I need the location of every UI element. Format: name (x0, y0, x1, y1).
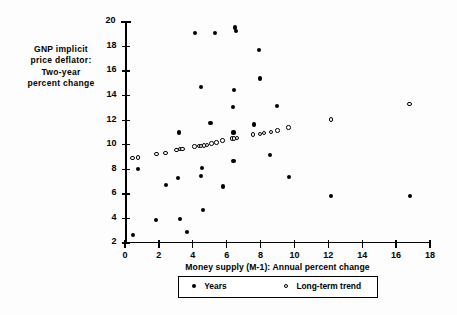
x-tick-label-8: 8 (258, 250, 263, 260)
data-point (154, 218, 158, 222)
data-point (268, 153, 272, 157)
data-point (214, 140, 218, 144)
x-axis-line (125, 242, 430, 244)
x-tick-16 (395, 240, 396, 248)
x-tick-6 (226, 240, 227, 248)
data-point (329, 194, 333, 198)
data-point (163, 151, 167, 155)
x-tick-label-10: 10 (289, 250, 299, 260)
x-axis-title: Money supply (M-1): Annual percent chang… (125, 262, 430, 272)
data-point (269, 130, 273, 134)
x-tick-label-12: 12 (323, 250, 333, 260)
data-point (136, 155, 140, 159)
y-axis-title-line-1: GNP implicit (12, 44, 110, 55)
y-tick-10: 10 (122, 144, 130, 145)
data-point (154, 152, 158, 156)
legend-entry-years: Years (192, 281, 227, 291)
open-circle-icon (284, 284, 288, 288)
data-point (235, 136, 239, 140)
y-tick-6: 6 (122, 193, 130, 194)
data-point (407, 102, 411, 106)
y-axis-title-line-4: percent change (12, 78, 110, 89)
data-point (251, 132, 255, 136)
legend-label-trend: Long-term trend (296, 281, 361, 291)
data-point (199, 174, 203, 178)
data-point (220, 138, 224, 142)
y-tick-label-8: 8 (111, 163, 116, 173)
data-point (193, 31, 197, 35)
data-point (130, 156, 134, 160)
data-point (252, 122, 256, 126)
x-tick-label-16: 16 (391, 250, 401, 260)
data-point (208, 121, 212, 125)
y-tick-label-16: 16 (106, 64, 116, 74)
data-point (209, 141, 213, 145)
data-point (232, 88, 236, 92)
data-point (201, 208, 205, 212)
y-tick-4: 4 (122, 218, 130, 219)
plot-area: 2468101214161820 024681012141618 (125, 22, 430, 243)
x-tick-14 (362, 240, 363, 248)
data-point (234, 29, 238, 33)
scatter-plot-figure: GNP implicit price deflator: Two-year pe… (0, 0, 457, 315)
data-point (200, 166, 204, 170)
data-point (257, 48, 261, 52)
y-tick-14: 14 (122, 95, 130, 96)
y-axis-title-line-2: price deflator: (12, 55, 110, 66)
x-tick-label-6: 6 (224, 250, 229, 260)
filled-circle-icon (192, 284, 196, 288)
data-point (258, 76, 262, 80)
x-tick-10 (294, 240, 295, 248)
y-tick-label-18: 18 (106, 40, 116, 50)
data-point (286, 125, 290, 129)
y-tick-label-14: 14 (106, 89, 116, 99)
x-tick-label-0: 0 (122, 250, 127, 260)
data-point (231, 105, 235, 109)
y-tick-label-2: 2 (111, 236, 116, 246)
x-tick-8 (260, 240, 261, 248)
legend-entry-trend: Long-term trend (284, 281, 361, 291)
data-point (287, 175, 291, 179)
x-tick-4 (192, 240, 193, 248)
data-point (221, 184, 225, 188)
x-tick-label-4: 4 (190, 250, 195, 260)
data-point (275, 104, 279, 108)
y-tick-8: 8 (122, 169, 130, 170)
y-tick-label-20: 20 (105, 15, 115, 25)
data-point (185, 230, 189, 234)
data-point (231, 159, 235, 163)
y-tick-18: 18 (122, 46, 130, 47)
x-tick-0 (124, 240, 125, 248)
data-point (408, 194, 412, 198)
x-tick-12 (328, 240, 329, 248)
legend-box: Years Long-term trend (178, 276, 378, 298)
data-point (178, 217, 182, 221)
data-point (199, 85, 203, 89)
x-tick-label-2: 2 (156, 250, 161, 260)
y-tick-label-10: 10 (106, 138, 116, 148)
y-axis-title-line-3: Two-year (12, 67, 110, 78)
y-tick-20: 20 (121, 21, 131, 23)
data-point (176, 176, 180, 180)
y-tick-label-12: 12 (106, 114, 116, 124)
legend-label-years: Years (204, 281, 226, 291)
y-tick-16: 16 (122, 70, 130, 71)
data-point (177, 130, 181, 134)
data-point (180, 147, 184, 151)
y-axis-line (125, 22, 127, 243)
data-point (262, 131, 266, 135)
x-tick-label-14: 14 (357, 250, 367, 260)
y-tick-12: 12 (122, 120, 130, 121)
x-tick-label-18: 18 (425, 250, 435, 260)
data-point (131, 233, 135, 237)
data-point (275, 128, 279, 132)
data-point (136, 167, 140, 171)
data-point (164, 183, 168, 187)
y-tick-label-6: 6 (111, 187, 116, 197)
x-tick-2 (158, 240, 159, 248)
data-point (329, 117, 333, 121)
y-tick-label-4: 4 (111, 212, 116, 222)
y-axis-title: GNP implicit price deflator: Two-year pe… (12, 44, 110, 90)
x-tick-18 (429, 240, 430, 248)
data-point (213, 31, 217, 35)
